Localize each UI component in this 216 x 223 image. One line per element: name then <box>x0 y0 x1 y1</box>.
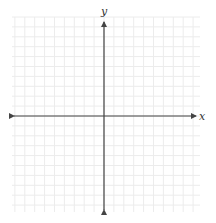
y-axis-label: y <box>100 5 108 18</box>
grid-lines <box>12 17 200 212</box>
x-axis-label: x <box>199 110 206 123</box>
coordinate-plane: x y <box>0 0 216 223</box>
